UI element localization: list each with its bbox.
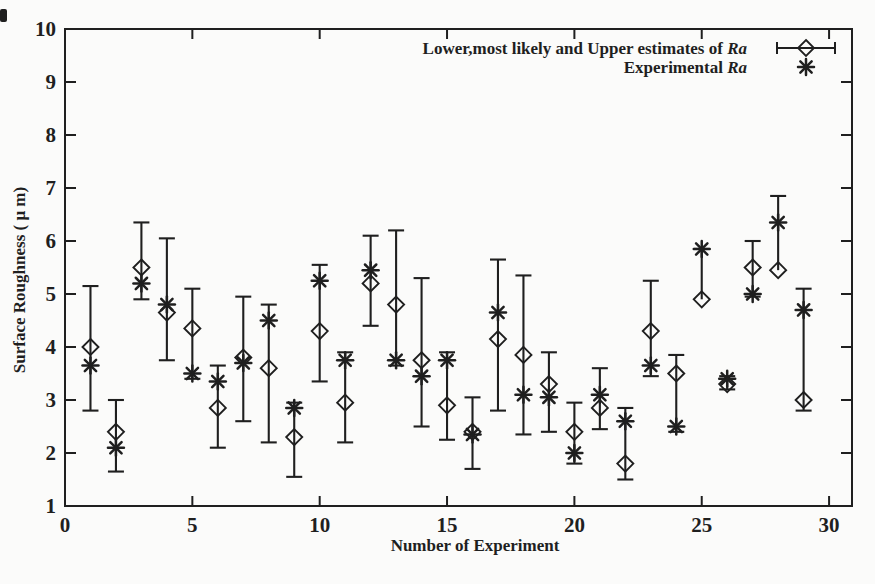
y-tick-label: 8 — [46, 123, 57, 147]
legend-sample-asterisk — [798, 59, 814, 75]
legend: Lower,most likely and Upper estimates of… — [423, 39, 835, 77]
figure: 05101520253012345678910Number of Experim… — [0, 0, 875, 584]
legend-label: Experimental Ra — [624, 58, 748, 77]
y-tick-label: 6 — [46, 229, 57, 253]
surface-roughness-chart: 05101520253012345678910Number of Experim… — [0, 0, 875, 584]
y-tick-label: 9 — [46, 70, 57, 94]
y-tick-label: 10 — [35, 17, 56, 41]
x-tick-label: 0 — [60, 513, 71, 537]
x-tick-label: 25 — [691, 513, 712, 537]
y-tick-label: 5 — [46, 282, 57, 306]
y-tick-label: 7 — [46, 176, 57, 200]
y-tick-label: 4 — [46, 335, 57, 359]
x-tick-label: 5 — [187, 513, 198, 537]
scan-artifact — [0, 9, 7, 22]
y-tick-label: 1 — [46, 494, 57, 518]
y-tick-label: 3 — [46, 388, 57, 412]
legend-sample-diamond-errorbar — [777, 40, 835, 56]
y-axis-label: Surface Roughness ( μ m) — [10, 187, 29, 373]
legend-label: Lower,most likely and Upper estimates of… — [423, 39, 748, 58]
estimate-error-bars — [82, 196, 811, 480]
x-tick-label: 10 — [309, 513, 330, 537]
x-tick-label: 15 — [437, 513, 458, 537]
axis-ticks — [65, 29, 852, 506]
x-tick-label: 20 — [564, 513, 585, 537]
x-axis-label: Number of Experiment — [391, 536, 560, 555]
x-tick-label: 30 — [819, 513, 840, 537]
y-tick-label: 2 — [46, 441, 57, 465]
plot-frame — [65, 29, 852, 506]
